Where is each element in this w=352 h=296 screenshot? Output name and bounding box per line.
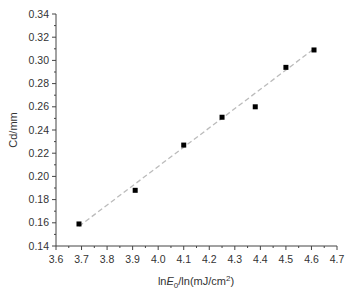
y-axis-title: Cd/mm [7,112,19,147]
scatter-chart: 0.140.160.180.200.220.240.260.280.300.32… [0,0,352,296]
data-point-marker [133,188,138,193]
y-tick-label: 0.32 [29,31,50,43]
axes: 0.140.160.180.200.220.240.260.280.300.32… [29,8,345,266]
y-tick-label: 0.20 [29,170,50,182]
y-tick-label: 0.24 [29,124,50,136]
x-axis-title: lnE0/ln(mJ/cm2) [158,274,234,290]
y-tick-label: 0.22 [29,147,50,159]
x-tick-label: 3.6 [49,253,64,265]
x-tick-label: 4.7 [330,253,345,265]
x-tick-label: 4.4 [253,253,268,265]
linear-fit-line [79,49,314,226]
data-point-marker [220,115,225,120]
data-point-marker [181,143,186,148]
x-tick-label: 3.8 [100,253,115,265]
x-tick-label: 4.2 [202,253,217,265]
y-tick-label: 0.28 [29,77,50,89]
x-tick-label: 3.7 [74,253,89,265]
x-tick-label: 3.9 [125,253,140,265]
y-tick-label: 0.18 [29,193,50,205]
data-point-marker [253,104,258,109]
y-tick-label: 0.16 [29,216,50,228]
y-tick-label: 0.14 [29,240,50,252]
data-point-marker [312,47,317,52]
x-tick-label: 4.1 [176,253,191,265]
y-tick-label: 0.30 [29,54,50,66]
data-point-marker [283,65,288,70]
y-tick-label: 0.34 [29,8,50,20]
fit-line [79,49,314,226]
x-tick-label: 4.0 [151,253,166,265]
data-point-marker [76,221,81,226]
x-tick-label: 4.5 [279,253,294,265]
x-tick-label: 4.6 [304,253,319,265]
y-tick-label: 0.26 [29,100,50,112]
x-tick-label: 4.3 [228,253,243,265]
